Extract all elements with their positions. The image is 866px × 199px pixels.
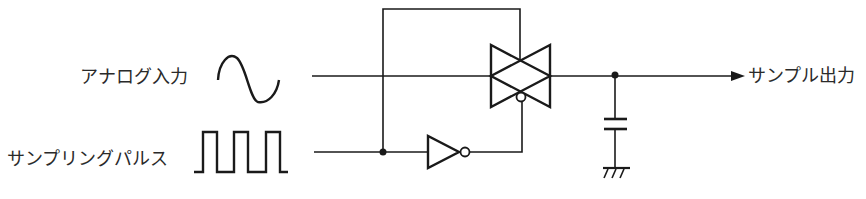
inverted-control-wire [470, 102, 522, 152]
analog-input-label: アナログ入力 [80, 66, 188, 87]
sample-output-label: サンプル出力 [748, 65, 855, 86]
gate-bubble [517, 93, 526, 102]
inverter-triangle [428, 136, 459, 168]
square-wave-icon [194, 132, 288, 172]
sampling-pulse-label: サンプリングパルス [7, 148, 168, 169]
sine-wave-icon [218, 56, 279, 102]
inverter-bubble [461, 148, 470, 157]
output-arrow-icon [731, 71, 745, 81]
ground-icon [603, 168, 630, 178]
circuit-diagram: アナログ入力 サンプリングパルス サンプル出力 [0, 0, 866, 199]
